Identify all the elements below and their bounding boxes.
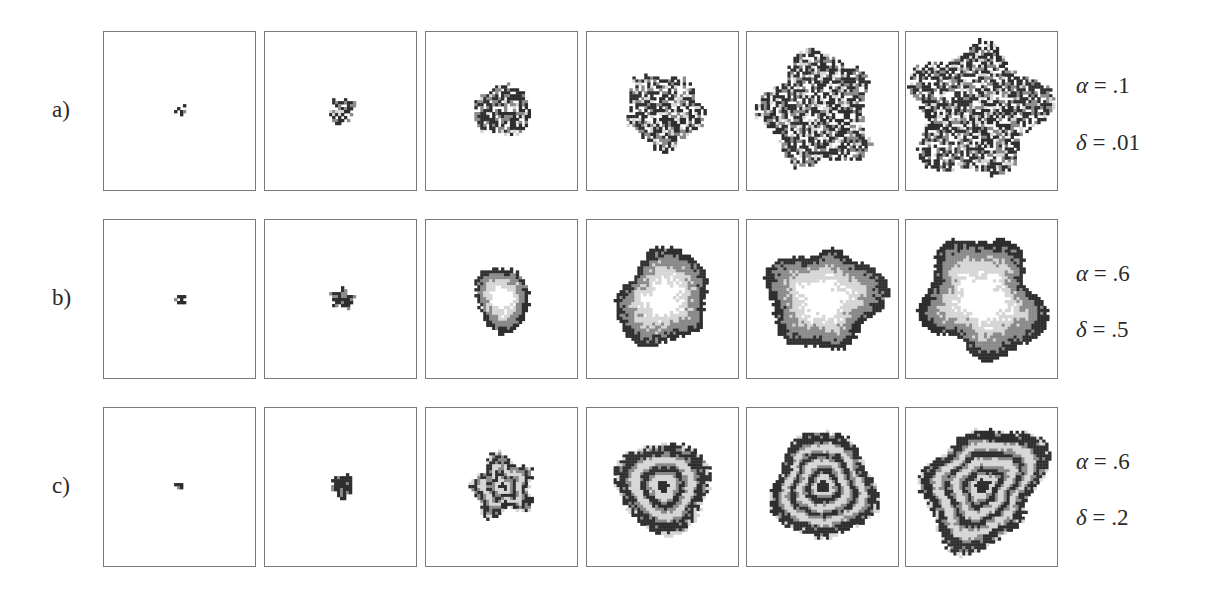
- pattern-a-5-image: [747, 32, 898, 190]
- panel-c-3: [425, 407, 578, 567]
- pattern-c-2-image: [265, 408, 416, 566]
- pattern-a-1-image: [104, 32, 255, 190]
- panel-a-1: [103, 31, 256, 191]
- pattern-c-1-image: [104, 408, 255, 566]
- row-b: b) α = .6 δ = .5: [0, 219, 1209, 381]
- equals-sign: =: [1087, 505, 1111, 530]
- delta-symbol: δ: [1076, 505, 1087, 530]
- alpha-symbol: α: [1076, 449, 1088, 474]
- pattern-b-5-image: [747, 220, 898, 378]
- equals-sign: =: [1088, 261, 1112, 286]
- row-c: c) α = .6 δ = .2: [0, 407, 1209, 569]
- delta-value: .5: [1111, 317, 1128, 342]
- panel-b-3: [425, 219, 578, 379]
- row-label-a: a): [52, 97, 70, 123]
- equals-sign: =: [1087, 130, 1111, 155]
- panel-b-6: [905, 219, 1058, 379]
- row-a: a) α = .1 δ = .01: [0, 31, 1209, 193]
- equals-sign: =: [1088, 449, 1112, 474]
- panel-b-5: [746, 219, 899, 379]
- row-label-b: b): [52, 285, 71, 311]
- panel-c-6: [905, 407, 1058, 567]
- alpha-value: .6: [1113, 449, 1130, 474]
- delta-value: .2: [1111, 505, 1128, 530]
- pattern-c-4-image: [587, 408, 738, 566]
- row-label-c: c): [52, 473, 70, 499]
- panel-b-4: [586, 219, 739, 379]
- param-delta-c: δ = .2: [1076, 505, 1128, 531]
- pattern-b-2-image: [265, 220, 416, 378]
- param-alpha-c: α = .6: [1076, 449, 1130, 475]
- pattern-b-1-image: [104, 220, 255, 378]
- pattern-b-3-image: [426, 220, 577, 378]
- alpha-symbol: α: [1076, 73, 1088, 98]
- panel-b-1: [103, 219, 256, 379]
- panel-c-5: [746, 407, 899, 567]
- param-delta-a: δ = .01: [1076, 130, 1140, 156]
- pattern-a-6-image: [906, 32, 1057, 190]
- pattern-a-4-image: [587, 32, 738, 190]
- panel-b-2: [264, 219, 417, 379]
- panel-a-2: [264, 31, 417, 191]
- pattern-a-3-image: [426, 32, 577, 190]
- delta-symbol: δ: [1076, 317, 1087, 342]
- equals-sign: =: [1087, 317, 1111, 342]
- pattern-b-4-image: [587, 220, 738, 378]
- param-delta-b: δ = .5: [1076, 317, 1128, 343]
- equals-sign: =: [1088, 73, 1112, 98]
- param-alpha-a: α = .1: [1076, 73, 1130, 99]
- panel-c-4: [586, 407, 739, 567]
- alpha-value: .6: [1113, 261, 1130, 286]
- param-alpha-b: α = .6: [1076, 261, 1130, 287]
- pattern-c-5-image: [747, 408, 898, 566]
- panel-a-6: [905, 31, 1058, 191]
- delta-value: .01: [1111, 130, 1140, 155]
- pattern-b-6-image: [906, 220, 1057, 378]
- panel-a-5: [746, 31, 899, 191]
- panel-a-4: [586, 31, 739, 191]
- pattern-c-3-image: [426, 408, 577, 566]
- panel-c-1: [103, 407, 256, 567]
- panel-c-2: [264, 407, 417, 567]
- alpha-symbol: α: [1076, 261, 1088, 286]
- panel-a-3: [425, 31, 578, 191]
- figure: a) α = .1 δ = .01 b) α = .6 δ: [0, 0, 1209, 595]
- pattern-a-2-image: [265, 32, 416, 190]
- delta-symbol: δ: [1076, 130, 1087, 155]
- pattern-c-6-image: [906, 408, 1057, 566]
- alpha-value: .1: [1113, 73, 1130, 98]
